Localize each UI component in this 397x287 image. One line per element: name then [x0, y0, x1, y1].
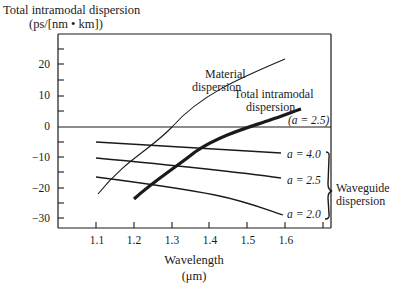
total-dispersion-label: Total intramodal [234, 87, 314, 101]
y-tick-label: −20 [32, 182, 50, 194]
x-tick-label: 1.2 [127, 234, 142, 246]
material-dispersion-label: Material [205, 67, 246, 81]
y-tick-label: 0 [44, 120, 50, 132]
x-tick-label: 1.3 [165, 234, 180, 246]
waveguide-a20-label: a = 2.0 [287, 208, 321, 220]
total-dispersion-label-2: dispersion [246, 100, 295, 114]
waveguide-a25-label: a = 2.5 [287, 174, 321, 186]
y-tick-label: −30 [32, 212, 50, 224]
y-tick-label: 10 [39, 89, 51, 101]
total-dispersion-a-label: (a = 2.5) [288, 114, 329, 127]
x-axis-title: Wavelength [164, 253, 224, 267]
waveguide-a40-curve [96, 142, 281, 153]
x-tick-label: 1.6 [279, 234, 294, 246]
x-tick-label: 1.4 [203, 234, 218, 246]
x-tick-label: 1.5 [241, 234, 256, 246]
plot-frame [58, 34, 331, 228]
y-tick-labels: 20 10 0 −10 −20 −30 [32, 58, 50, 224]
x-tick-labels: 1.1 1.2 1.3 1.4 1.5 1.6 [90, 234, 294, 246]
waveguide-a25-curve [96, 158, 281, 178]
y-ticks [58, 49, 64, 218]
waveguide-dispersion-label: Waveguide [336, 181, 390, 195]
y-tick-label: −10 [32, 151, 50, 163]
waveguide-a40-label: a = 4.0 [287, 148, 321, 160]
x-ticks [96, 222, 323, 228]
y-axis-title: Total intramodal dispersion [3, 3, 141, 17]
y-tick-label: 20 [39, 58, 51, 70]
waveguide-a20-curve [96, 177, 283, 215]
waveguide-dispersion-label-2: dispersion [336, 194, 385, 208]
dispersion-chart: Total intramodal dispersion (ps/[nm • km… [0, 0, 397, 287]
y-axis-units: (ps/[nm • km]) [29, 17, 103, 31]
x-tick-label: 1.1 [90, 234, 105, 246]
x-axis-units: (μm) [182, 269, 207, 283]
